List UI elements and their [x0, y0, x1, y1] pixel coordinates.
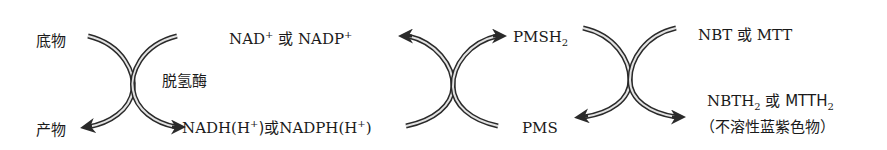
dye-reduced-label: NBTH2 或 MTTH2	[707, 92, 834, 110]
enzyme-label: 脱氢酶	[162, 72, 207, 90]
dye-note-label: （不溶性蓝紫色物）	[700, 118, 835, 136]
reaction-diagram: 底物 产物 脱氢酶 NAD+ 或 NADP+ NADH(H+)或NADPH(H+…	[0, 0, 887, 150]
reduced-cofactor-label: NADH(H+)或NADPH(H+)	[182, 119, 372, 137]
reduced-carrier-label: PMSH2	[513, 28, 568, 46]
product-label: 产物	[36, 121, 66, 139]
dye-oxidized-label: NBT 或 MTT	[698, 26, 792, 44]
oxidized-cofactor-label: NAD+ 或 NADP+	[229, 30, 352, 48]
oxidized-carrier-label: PMS	[522, 119, 558, 137]
crossing-arrow-3	[580, 28, 680, 117]
crossing-arrow-2	[404, 36, 501, 126]
substrate-label: 底物	[36, 32, 66, 50]
